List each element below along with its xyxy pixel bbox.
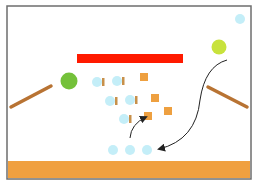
red-bar-obstacle xyxy=(77,54,183,63)
orange-square-block[interactable] xyxy=(144,112,152,120)
target-ball[interactable] xyxy=(108,145,118,155)
orange-square-block[interactable] xyxy=(164,107,172,115)
green-ball[interactable] xyxy=(61,73,78,90)
yellow-green-ball[interactable] xyxy=(212,40,227,55)
cluster-ball[interactable] xyxy=(112,76,122,86)
cluster-tab xyxy=(115,97,118,105)
cluster-tab xyxy=(135,96,138,104)
cluster-ball[interactable] xyxy=(105,96,115,106)
orange-square-block[interactable] xyxy=(151,94,159,102)
cluster-ball[interactable] xyxy=(119,114,129,124)
orange-square-block[interactable] xyxy=(140,73,148,81)
ground-floor xyxy=(8,161,250,178)
cluster-tab xyxy=(102,78,105,86)
target-ball[interactable] xyxy=(142,145,152,155)
light-blue-small-ball[interactable] xyxy=(235,14,245,24)
target-ball[interactable] xyxy=(125,145,135,155)
cluster-tab xyxy=(122,77,125,85)
cluster-tab xyxy=(129,115,132,123)
game-scene[interactable] xyxy=(0,0,255,185)
cluster-ball[interactable] xyxy=(92,77,102,87)
cluster-ball[interactable] xyxy=(125,95,135,105)
